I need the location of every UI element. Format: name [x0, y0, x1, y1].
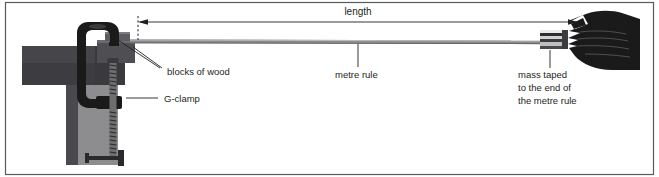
label-mass-line-2: to the end of — [518, 82, 571, 93]
mass-right-face — [562, 30, 568, 49]
clamp-lower-jaw — [96, 96, 122, 109]
bench-leg-side — [66, 85, 78, 165]
clamp-tommy-bar-end-right — [118, 150, 124, 166]
clamp-screw-collar — [108, 58, 119, 63]
label-blocks-of-wood: blocks of wood — [167, 66, 230, 77]
label-metre-rule: metre rule — [335, 69, 378, 80]
clamp-top-highlight — [89, 24, 106, 29]
label-length: length — [344, 6, 371, 17]
physics-diagram-metre-rule: length blocks of wood metre rule G-clamp… — [0, 0, 659, 177]
label-mass-line-3: the metre rule — [518, 95, 577, 106]
diagram-canvas: length blocks of wood metre rule G-clamp… — [0, 0, 659, 177]
clamp-tommy-bar — [86, 156, 122, 160]
label-mass-line-1: mass taped — [518, 69, 567, 80]
label-g-clamp: G-clamp — [164, 93, 200, 104]
clamp-top-jaw — [109, 42, 119, 46]
mass-group — [540, 30, 568, 49]
clamp-tommy-bar-end-left — [85, 153, 89, 163]
